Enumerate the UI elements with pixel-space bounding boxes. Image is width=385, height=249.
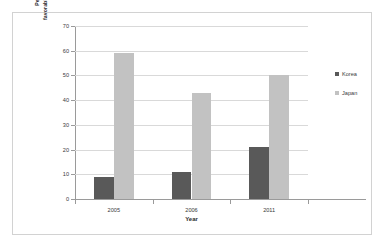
- y-tick-label: 20: [63, 147, 69, 153]
- x-axis-title: Year: [75, 216, 308, 222]
- legend-item-japan[interactable]: Japan: [335, 90, 381, 96]
- bar-japan-2011[interactable]: [269, 75, 289, 199]
- y-tick-label: 0: [66, 196, 69, 202]
- y-tick-label: 10: [63, 171, 69, 177]
- legend-swatch-korea-icon: [335, 72, 339, 76]
- plot-area: 010203040506070200520062011: [75, 26, 308, 200]
- y-tick-label: 60: [63, 48, 69, 54]
- y-axis-title-line2: favorable attitude toward the other coun…: [42, 0, 48, 20]
- bar-korea-2005[interactable]: [94, 177, 114, 199]
- bar-korea-2006[interactable]: [172, 172, 192, 199]
- bar-japan-2006[interactable]: [192, 93, 212, 199]
- x-axis-line: [71, 199, 366, 200]
- x-tick-mark: [75, 200, 76, 204]
- y-axis-title-line1: Percentage of respondents with: [34, 0, 40, 6]
- y-tick-mark: [71, 26, 75, 27]
- y-tick-label: 50: [63, 72, 69, 78]
- x-tick-mark: [230, 200, 231, 204]
- x-tick-mark: [308, 200, 309, 204]
- gridline: [75, 51, 308, 52]
- y-tick-label: 30: [63, 122, 69, 128]
- y-tick-mark: [71, 174, 75, 175]
- x-tick-label-2005: 2005: [108, 207, 120, 213]
- y-tick-mark: [71, 125, 75, 126]
- bar-korea-2011[interactable]: [249, 147, 269, 199]
- y-axis-title: Percentage of respondents with favorable…: [29, 0, 55, 49]
- y-tick-label: 40: [63, 97, 69, 103]
- chart-frame: Percentage of respondents with favorable…: [12, 12, 372, 235]
- legend-item-korea[interactable]: Korea: [335, 71, 381, 77]
- gridline: [75, 26, 308, 27]
- y-tick-label: 70: [63, 23, 69, 29]
- bar-japan-2005[interactable]: [114, 53, 134, 199]
- legend-swatch-japan-icon: [335, 91, 339, 95]
- legend-label-korea: Korea: [342, 71, 357, 77]
- y-tick-mark: [71, 51, 75, 52]
- y-tick-mark: [71, 150, 75, 151]
- y-tick-mark: [71, 100, 75, 101]
- x-tick-mark: [153, 200, 154, 204]
- legend-label-japan: Japan: [342, 90, 357, 96]
- x-tick-label-2011: 2011: [263, 207, 275, 213]
- x-tick-label-2006: 2006: [185, 207, 197, 213]
- y-tick-mark: [71, 75, 75, 76]
- chart-legend: Korea Japan: [335, 71, 381, 109]
